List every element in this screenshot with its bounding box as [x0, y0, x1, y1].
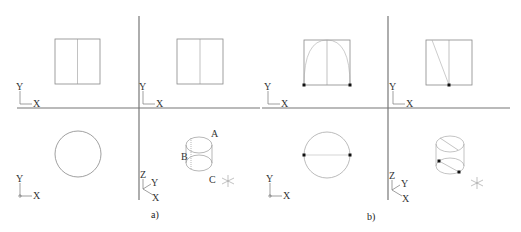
top-view-circle [303, 132, 352, 178]
ucs-icon-side [393, 91, 405, 104]
grip-point[interactable] [458, 171, 461, 174]
top-view-circle [55, 131, 101, 177]
isometric-cylinder [186, 137, 212, 171]
axis-label-x: X [33, 98, 41, 109]
axis-label-y: Y [16, 173, 23, 184]
axis-label-x: X [283, 190, 291, 201]
grip-point[interactable] [349, 154, 352, 157]
side-view [426, 40, 472, 87]
grip-point[interactable] [349, 84, 352, 87]
point-label-a: A [211, 128, 219, 139]
point-label-b: B [181, 151, 188, 162]
panel-a: A B C Y X Y X Y X Z Y [16, 16, 260, 221]
axis-label-y: Y [139, 81, 146, 92]
axis-label-y: Y [389, 81, 396, 92]
ucs-icon-side [143, 91, 155, 104]
front-view [303, 40, 352, 87]
panel-b: Y X Y X Y X Z Y X b) [262, 16, 510, 223]
grip-point[interactable] [448, 84, 451, 87]
point-label-c: C [209, 174, 216, 185]
panel-caption-a: a) [151, 209, 159, 221]
viewpoint-star-icon [222, 175, 234, 187]
grip-point[interactable] [303, 84, 306, 87]
front-view [55, 39, 100, 84]
grip-point[interactable] [438, 160, 441, 163]
axis-label-x: X [152, 192, 160, 203]
panel-caption-b: b) [367, 211, 375, 223]
grip-point[interactable] [303, 154, 306, 157]
axis-label-x: X [33, 190, 41, 201]
axis-label-x: X [406, 98, 414, 109]
axis-label-y: Y [151, 177, 158, 188]
ucs-icon-front [268, 91, 280, 104]
axis-label-y: Y [401, 178, 408, 189]
isometric-cylinder [436, 136, 464, 174]
axis-label-y: Y [264, 81, 271, 92]
ucs-icon-front [20, 91, 32, 104]
axis-label-y: Y [16, 81, 23, 92]
diagram-canvas: A B C Y X Y X Y X Z Y [0, 0, 521, 232]
side-view [177, 39, 223, 84]
axis-label-y: Y [266, 173, 273, 184]
ucs-icon-top [269, 183, 282, 197]
axis-label-x: X [156, 98, 164, 109]
ucs-icon-top [19, 183, 32, 197]
axis-label-x: X [402, 193, 410, 204]
axis-label-z: Z [389, 170, 395, 181]
viewpoint-star-icon [471, 177, 483, 189]
axis-label-x: X [281, 98, 289, 109]
axis-label-z: Z [140, 169, 146, 180]
